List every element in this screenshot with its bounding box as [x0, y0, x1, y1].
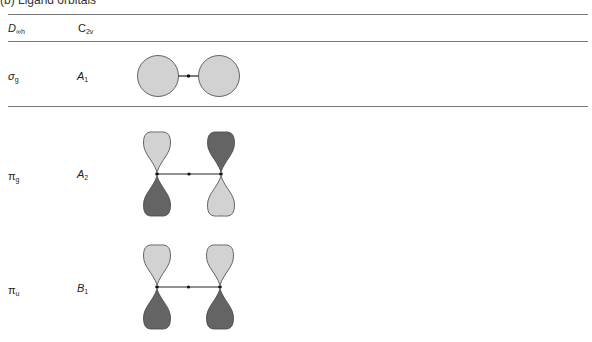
p-lobe-lower-left: [144, 176, 171, 216]
center-dot: [187, 285, 190, 288]
p-lobe-upper-left: [144, 132, 171, 172]
s-orbital-left: [138, 56, 179, 97]
p-lobe-lower-right: [208, 176, 235, 216]
nucleus-right: [219, 172, 223, 176]
center-dot: [187, 172, 190, 175]
s-orbital-right: [199, 56, 240, 97]
p-lobe-lower-left: [144, 289, 171, 329]
p-lobe-lower-right: [207, 289, 234, 329]
nucleus-left: [155, 172, 159, 176]
nucleus-right: [218, 285, 222, 289]
sigma-g-orbital: [138, 56, 240, 97]
pi-g-orbital: [144, 132, 235, 216]
orbital-diagrams: [0, 0, 592, 342]
pi-u-orbital: [144, 245, 234, 329]
p-lobe-upper-right: [207, 245, 234, 285]
p-lobe-upper-left: [144, 245, 171, 285]
nucleus-left: [155, 285, 159, 289]
center-dot: [187, 74, 191, 78]
p-lobe-upper-right: [208, 132, 235, 172]
